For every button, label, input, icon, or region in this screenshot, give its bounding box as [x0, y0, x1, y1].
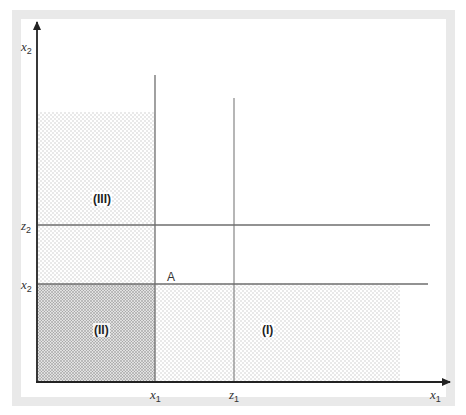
x-tick-x1: x1 [150, 388, 161, 404]
x-axis-label: x1 [430, 388, 441, 404]
x-axis-label-sub: 1 [436, 394, 441, 404]
y-tick-z2: z2 [21, 219, 31, 235]
region-ii-label: (II) [93, 323, 110, 337]
region-i-label: (I) [261, 323, 274, 337]
region-i [155, 284, 400, 382]
y-tick-z2-sub: 2 [26, 225, 31, 235]
region-iii-label: (III) [92, 192, 112, 206]
point-a-label: A [167, 271, 175, 283]
x-tick-x1-sub: 1 [156, 394, 161, 404]
y-axis-label-sub: 2 [27, 46, 32, 56]
x-tick-z1-sub: 1 [234, 394, 239, 404]
y-tick-x2: x2 [21, 278, 32, 294]
y-tick-x2-sub: 2 [27, 284, 32, 294]
x-tick-z1: z1 [229, 388, 239, 404]
y-axis-label: x2 [21, 40, 32, 56]
diagram-canvas [0, 0, 466, 415]
